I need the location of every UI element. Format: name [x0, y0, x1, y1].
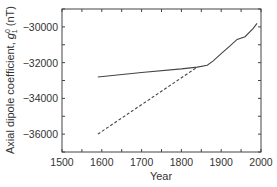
y-axis-label: Axial dipole coefficient, g01 (nT) — [4, 6, 18, 154]
y-axis: −30000−32000−34000−36000 — [23, 9, 261, 152]
x-axis: 150016001700180019002000 — [50, 9, 273, 168]
series-solid-line — [98, 23, 257, 77]
chart: 150016001700180019002000 −30000−32000−34… — [0, 0, 277, 187]
y-tick-label: −32000 — [23, 57, 58, 69]
plot-frame — [62, 9, 261, 152]
x-tick-label: 1800 — [170, 156, 194, 168]
x-tick-label: 1500 — [50, 156, 74, 168]
y-tick-label: −34000 — [23, 92, 58, 104]
y-tick-label: −36000 — [23, 128, 58, 140]
x-tick-label: 1900 — [210, 156, 234, 168]
x-tick-label: 2000 — [249, 156, 273, 168]
series-dashed-line — [98, 67, 198, 134]
x-tick-label: 1700 — [130, 156, 154, 168]
series-group — [98, 23, 257, 134]
y-tick-label: −30000 — [23, 21, 58, 33]
x-tick-label: 1600 — [90, 156, 114, 168]
x-axis-label: Year — [150, 170, 173, 182]
